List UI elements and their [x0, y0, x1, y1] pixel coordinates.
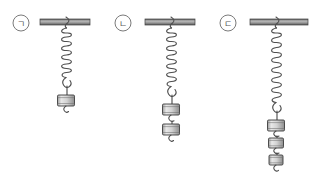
ceiling-bar-b [145, 19, 195, 25]
weight-body [58, 95, 75, 106]
system-c-label: ㄷ [224, 19, 232, 29]
system-b-label: ㄴ [119, 19, 127, 29]
weight-body [269, 155, 283, 165]
spring-systems-figure: ㄱ ㄴ [0, 0, 318, 173]
system-b-label-badge: ㄴ [115, 15, 131, 31]
weight-body [163, 124, 180, 135]
system-b-ceiling-bar [145, 19, 195, 25]
system-a-label-badge: ㄱ [13, 15, 29, 31]
ceiling-bar-a [40, 19, 90, 25]
weight-body [268, 120, 285, 131]
weight-body [269, 138, 284, 148]
system-a-label: ㄱ [17, 19, 25, 29]
system-c-label-badge: ㄷ [220, 15, 236, 31]
weight-body [163, 104, 180, 115]
system-a-ceiling-bar [40, 19, 90, 25]
system-c-weights [268, 120, 285, 171]
